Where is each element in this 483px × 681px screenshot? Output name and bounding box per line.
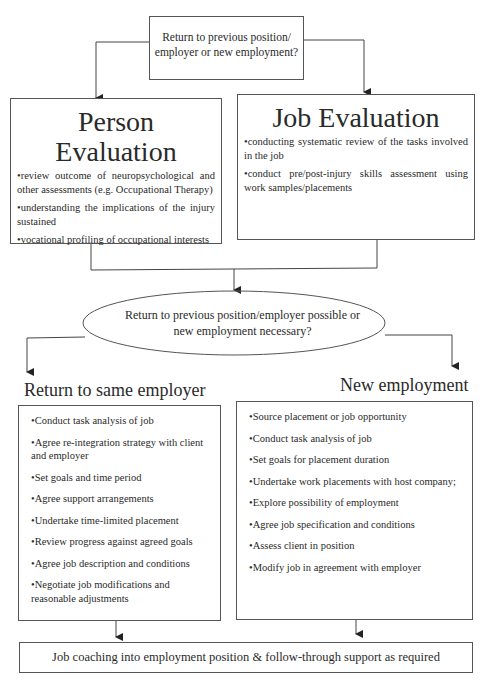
new-employment-item: •Undertake work placements with host com…	[249, 475, 462, 489]
person-evaluation-item: •understanding the implications of the i…	[17, 201, 215, 228]
job-evaluation-title: Job Evaluation	[244, 103, 468, 133]
new-employment-item: •Explore possibility of employment	[249, 496, 462, 510]
decision-ellipse: Return to previous position/employer pos…	[120, 307, 365, 339]
top-question-line1: Return to previous position/	[150, 30, 303, 45]
decision-line2: new employment necessary?	[120, 323, 365, 339]
job-evaluation-box: Job Evaluation •conducting systematic re…	[237, 94, 475, 240]
same-employer-item: •Review progress against agreed goals	[31, 535, 210, 549]
same-employer-box: •Conduct task analysis of job •Agree re-…	[18, 405, 221, 621]
job-evaluation-item: •conduct pre/post-injury skills assessme…	[244, 167, 468, 194]
same-employer-item: •Undertake time-limited placement	[31, 514, 210, 528]
same-employer-item: •Negotiate job modifications and reasona…	[31, 578, 210, 605]
new-employment-item: •Assess client in position	[249, 539, 462, 553]
person-evaluation-item: •review outcome of neuropsychological an…	[17, 169, 215, 196]
new-employment-item: •Set goals for placement duration	[249, 453, 462, 467]
decision-line1: Return to previous position/employer pos…	[120, 307, 365, 323]
top-question-box: Return to previous position/ employer or…	[149, 16, 304, 80]
footer-box: Job coaching into employment position & …	[19, 642, 473, 673]
person-evaluation-item: •vocational profiling of occupational in…	[17, 233, 215, 247]
same-employer-item: •Agree re-integration strategy with clie…	[31, 436, 210, 463]
new-employment-item: •Conduct task analysis of job	[249, 432, 462, 446]
same-employer-item: •Agree support arrangements	[31, 492, 210, 506]
new-employment-item: •Agree job specification and conditions	[249, 518, 462, 532]
same-employer-item: •Agree job description and conditions	[31, 557, 210, 571]
footer-text: Job coaching into employment position & …	[52, 650, 440, 664]
new-employment-title: New employment	[340, 375, 468, 395]
job-evaluation-item: •conducting systematic review of the tas…	[244, 135, 468, 162]
same-employer-item: •Set goals and time period	[31, 471, 210, 485]
same-employer-title: Return to same employer	[24, 380, 205, 400]
person-evaluation-title: Person Evaluation	[17, 107, 215, 167]
person-evaluation-box: Person Evaluation •review outcome of neu…	[10, 98, 222, 244]
new-employment-item: •Source placement or job opportunity	[249, 410, 462, 424]
new-employment-item: •Modify job in agreement with employer	[249, 561, 462, 575]
top-question-line2: employer or new employment?	[150, 45, 303, 60]
new-employment-box: •Source placement or job opportunity •Co…	[236, 401, 473, 620]
same-employer-item: •Conduct task analysis of job	[31, 414, 210, 428]
